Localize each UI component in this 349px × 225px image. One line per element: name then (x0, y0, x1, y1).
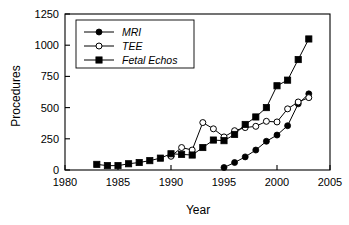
y-tick-label-500: 500 (41, 102, 59, 114)
data-point (253, 123, 259, 129)
legend-label: TEE (122, 40, 143, 52)
y-tick-label-1250: 1250 (35, 8, 59, 20)
data-point (306, 95, 312, 101)
x-tick-label-1980: 1980 (53, 176, 77, 188)
data-point (232, 160, 238, 166)
y-axis-title: Procedures (9, 65, 23, 126)
procedures-line-chart: 025050075010001250 198019851990199520002… (0, 0, 349, 225)
data-point (189, 152, 195, 158)
data-point (210, 126, 216, 132)
data-point (200, 120, 206, 126)
data-point (274, 132, 280, 138)
chart-figure: 025050075010001250 198019851990199520002… (0, 0, 349, 225)
data-point (263, 118, 269, 124)
x-axis-title: Year (186, 203, 210, 217)
data-point (232, 131, 238, 137)
data-point (210, 137, 216, 143)
chart-legend: MRITEEFetal Echos (76, 20, 194, 68)
x-tick-label-1990: 1990 (159, 176, 183, 188)
y-tick-label-1000: 1000 (35, 39, 59, 51)
legend-marker-filled-square (96, 57, 102, 63)
data-point (274, 83, 280, 89)
x-axis-ticks: 198019851990199520002005 (53, 165, 342, 188)
data-point (104, 163, 110, 169)
data-point (285, 77, 291, 83)
legend-label: Fetal Echos (122, 54, 178, 66)
data-point (295, 56, 301, 62)
legend-marker-filled-circle (96, 29, 102, 35)
data-point (136, 159, 142, 165)
data-point (168, 151, 174, 157)
data-point (285, 106, 291, 112)
data-point (157, 155, 163, 161)
x-tick-label-1995: 1995 (212, 176, 236, 188)
legend-marker-open-circle (96, 43, 102, 49)
data-point (285, 123, 291, 129)
data-point (306, 36, 312, 42)
data-point (263, 138, 269, 144)
data-point (242, 154, 248, 160)
data-point (200, 144, 206, 150)
x-tick-label-2005: 2005 (318, 176, 342, 188)
data-point (221, 138, 227, 144)
data-point (179, 145, 185, 151)
data-point (179, 151, 185, 157)
data-point (147, 158, 153, 164)
data-point (94, 161, 100, 167)
legend-label: MRI (122, 26, 141, 38)
data-point (253, 147, 259, 153)
y-tick-label-750: 750 (41, 70, 59, 82)
data-point (242, 121, 248, 127)
x-tick-label-2000: 2000 (265, 176, 289, 188)
y-tick-label-250: 250 (41, 133, 59, 145)
data-point (126, 161, 132, 167)
y-tick-label-0: 0 (53, 164, 59, 176)
data-point (221, 165, 227, 171)
data-point (274, 119, 280, 125)
data-point (263, 105, 269, 111)
x-tick-label-1985: 1985 (106, 176, 130, 188)
data-point (295, 99, 301, 105)
data-point (115, 163, 121, 169)
data-point (253, 114, 259, 120)
